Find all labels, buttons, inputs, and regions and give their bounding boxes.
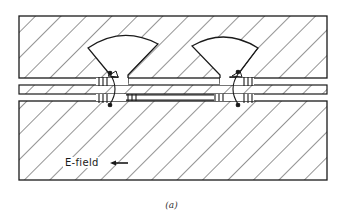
diagram-figure: [0, 0, 343, 222]
center-strip: [19, 85, 327, 94]
efield-label: E-field: [63, 157, 101, 168]
bottom-metal-block: [19, 101, 327, 180]
figure-caption: (a): [0, 200, 343, 210]
top-metal-block: [19, 16, 327, 78]
